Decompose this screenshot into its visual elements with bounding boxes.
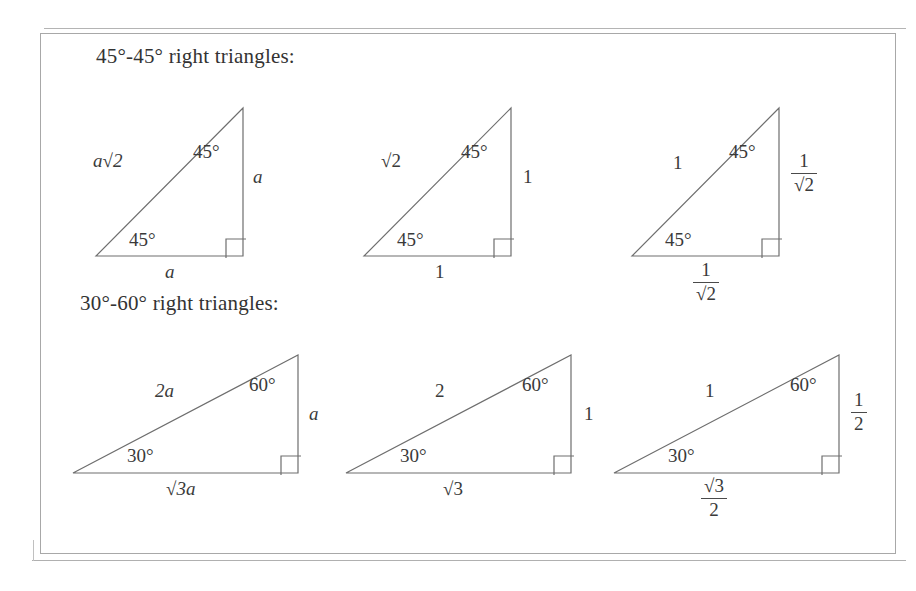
triangle-30-60-unit-outline (345, 352, 575, 476)
horizontal-leg-numerator: √3 (701, 476, 727, 499)
figure-root: 45°-45° right triangles: a√2 45° a 45° a… (0, 0, 916, 591)
vertical-leg-numerator: 1 (791, 151, 817, 174)
triangle-45-45-unit-vertical-leg-label: 1 (523, 167, 533, 186)
horizontal-leg-denominator: 2 (701, 499, 727, 521)
triangle-45-45-variable-outline (95, 105, 247, 259)
triangle-30-60-normalized-bottom-angle-label: 30° (668, 446, 695, 465)
triangle-30-60-unit: 2 60° 1 30° √3 (345, 352, 575, 476)
triangle-45-45-unit-bottom-angle-label: 45° (397, 230, 424, 249)
page-frame-outer-bottom-rule (32, 560, 906, 561)
vertical-leg-numerator: 1 (851, 390, 867, 413)
triangle-30-60-variable-top-angle-label: 60° (249, 375, 276, 394)
triangle-45-45-normalized-hypotenuse-label: 1 (673, 153, 683, 172)
triangle-45-45-unit-top-angle-label: 45° (461, 142, 488, 161)
vertical-leg-denominator: √2 (791, 174, 817, 196)
page-frame-outer-top-rule (44, 28, 906, 29)
triangle-45-45-unit: √2 45° 1 45° 1 (363, 105, 515, 259)
triangle-30-60-unit-top-angle-label: 60° (522, 375, 549, 394)
section-heading-30-60: 30°-60° right triangles: (80, 293, 279, 314)
triangle-30-60-normalized-vertical-leg-label: 1 2 (851, 390, 867, 434)
page-frame-outer-left-rule (33, 540, 34, 561)
triangle-45-45-unit-outline (363, 105, 515, 259)
triangle-45-45-unit-hypotenuse-label: √2 (381, 151, 401, 170)
triangle-45-45-normalized-outline (631, 105, 783, 259)
triangle-30-60-normalized-outline (613, 352, 843, 476)
triangle-30-60-normalized-top-angle-label: 60° (790, 375, 817, 394)
triangle-30-60-normalized-hypotenuse-label: 1 (705, 381, 715, 400)
triangle-45-45-variable: a√2 45° a 45° a (95, 105, 247, 259)
horizontal-leg-numerator: 1 (693, 260, 719, 283)
triangle-45-45-normalized-bottom-angle-label: 45° (665, 230, 692, 249)
triangle-30-60-variable-hypotenuse-label: 2a (155, 381, 174, 400)
vertical-leg-denominator: 2 (851, 413, 867, 435)
triangle-45-45-normalized-horizontal-leg-label: 1 √2 (693, 260, 719, 304)
triangle-45-45-normalized-vertical-leg-label: 1 √2 (791, 151, 817, 195)
triangle-30-60-variable-vertical-leg-label: a (309, 404, 319, 423)
triangle-45-45-normalized: 1 45° 1 √2 45° 1 √2 (631, 105, 783, 259)
triangle-30-60-variable: 2a 60° a 30° √3a (72, 352, 302, 476)
triangle-45-45-unit-horizontal-leg-label: 1 (435, 262, 445, 281)
triangle-30-60-variable-outline (72, 352, 302, 476)
section-heading-45-45: 45°-45° right triangles: (96, 46, 295, 67)
triangle-30-60-unit-bottom-angle-label: 30° (400, 446, 427, 465)
triangle-30-60-unit-horizontal-leg-label: √3 (443, 479, 463, 498)
triangle-45-45-variable-bottom-angle-label: 45° (129, 230, 156, 249)
triangle-30-60-unit-hypotenuse-label: 2 (435, 381, 445, 400)
triangle-45-45-variable-horizontal-leg-label: a (165, 262, 175, 281)
triangle-45-45-variable-top-angle-label: 45° (193, 142, 220, 161)
triangle-30-60-normalized-horizontal-leg-label: √3 2 (701, 476, 727, 520)
triangle-30-60-unit-vertical-leg-label: 1 (584, 404, 594, 423)
triangle-45-45-variable-hypotenuse-label: a√2 (93, 151, 122, 170)
triangle-30-60-normalized: 1 60° 1 2 30° √3 2 (613, 352, 843, 476)
triangle-30-60-variable-bottom-angle-label: 30° (127, 446, 154, 465)
horizontal-leg-denominator: √2 (693, 283, 719, 305)
triangle-45-45-variable-vertical-leg-label: a (253, 167, 263, 186)
triangle-45-45-normalized-top-angle-label: 45° (729, 142, 756, 161)
triangle-30-60-variable-horizontal-leg-label: √3a (166, 479, 195, 498)
